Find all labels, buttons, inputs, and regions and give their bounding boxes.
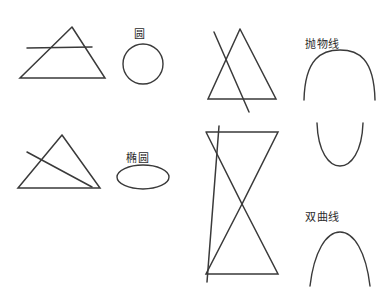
label-circle: 圆 (134, 28, 146, 41)
figure-cone-parabola (208, 29, 276, 112)
hyperbola-branch (310, 232, 370, 286)
parabola-arc-lower (317, 123, 363, 166)
cone-outline-ellipse (18, 135, 100, 188)
figure-hyperbola-result (310, 232, 370, 286)
figure-cone-hyperbola (206, 126, 278, 282)
cone-outline-circle (20, 27, 105, 78)
figure-circle-result (123, 44, 163, 84)
cone-outline-parabola (208, 29, 276, 99)
cut-line-vertical (207, 126, 219, 282)
conic-sections-diagram: 圆 椭圆 抛物线 双曲线 (0, 0, 387, 295)
label-ellipse: 椭圆 (126, 152, 149, 165)
figure-ellipse-result (117, 165, 169, 189)
figure-parabola-result (304, 50, 375, 166)
cut-line-parallel (214, 32, 249, 112)
figure-cone-ellipse (18, 135, 100, 188)
label-hyperbola: 双曲线 (305, 211, 340, 224)
double-cone-outline-upper (206, 132, 278, 204)
label-parabola: 抛物线 (305, 38, 340, 51)
ellipse-shape (117, 165, 169, 189)
cut-line-horizontal (27, 47, 92, 48)
cut-line-oblique (27, 152, 92, 187)
figure-cone-circle (20, 27, 105, 78)
parabola-arc-upper (304, 50, 375, 100)
circle-shape (123, 44, 163, 84)
double-cone-outline-lower (206, 204, 278, 274)
